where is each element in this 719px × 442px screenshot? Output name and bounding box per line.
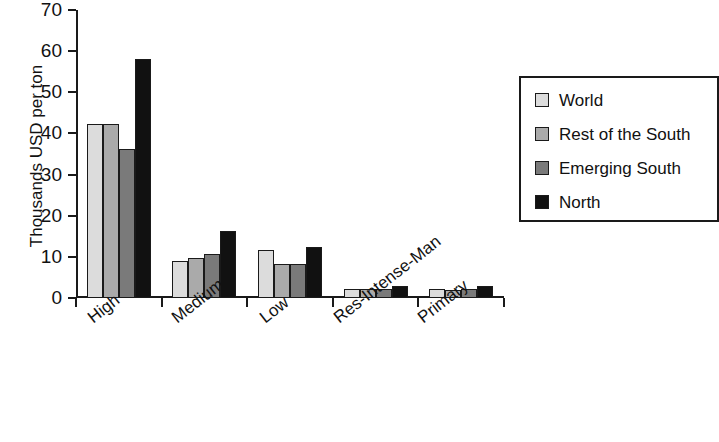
bar-group	[258, 10, 322, 298]
bar	[103, 124, 119, 298]
bar	[258, 250, 274, 298]
y-axis-tick-label: 0	[4, 288, 62, 307]
legend-item-label: North	[559, 194, 601, 211]
legend-item[interactable]: Emerging South	[535, 158, 681, 178]
bar	[392, 286, 408, 298]
legend-item[interactable]: World	[535, 90, 603, 110]
chart-legend: WorldRest of the SouthEmerging SouthNort…	[519, 76, 719, 222]
bar	[87, 124, 103, 298]
y-axis-tick	[68, 256, 76, 258]
legend-item[interactable]: North	[535, 192, 601, 212]
y-axis-tick-label: 50	[4, 82, 62, 101]
legend-item-label: Rest of the South	[559, 126, 690, 143]
y-axis-tick	[68, 132, 76, 134]
bar-group	[172, 10, 236, 298]
legend-swatch-world-icon	[535, 93, 549, 107]
bar	[274, 264, 290, 298]
legend-swatch-north-icon	[535, 195, 549, 209]
plot-area	[76, 10, 504, 298]
x-axis-tick	[246, 298, 248, 307]
bar	[135, 59, 151, 298]
x-axis-category-label: Low	[256, 293, 293, 328]
y-axis-tick-label: 40	[4, 123, 62, 142]
y-axis-tick	[68, 215, 76, 217]
y-axis-tick-label: 70	[4, 0, 62, 19]
x-axis-tick	[417, 298, 419, 307]
y-axis-tick-label: 20	[4, 206, 62, 225]
x-axis-tick	[75, 298, 77, 307]
y-axis-tick-label: 60	[4, 41, 62, 60]
bar	[172, 261, 188, 298]
y-axis-title: Thousands USD per ton	[27, 31, 47, 281]
bar-group	[87, 10, 151, 298]
bar-group	[344, 10, 408, 298]
y-axis-tick	[68, 91, 76, 93]
y-axis-tick	[68, 174, 76, 176]
legend-swatch-rest-of-the-south-icon	[535, 127, 549, 141]
legend-item[interactable]: Rest of the South	[535, 124, 690, 144]
y-axis-tick-label: 30	[4, 165, 62, 184]
legend-item-label: Emerging South	[559, 160, 681, 177]
x-axis-tick	[332, 298, 334, 307]
y-axis-tick	[68, 9, 76, 11]
bar-group	[429, 10, 493, 298]
legend-item-label: World	[559, 92, 603, 109]
bar	[119, 149, 135, 298]
x-axis-tick	[161, 298, 163, 307]
legend-swatch-emerging-south-icon	[535, 161, 549, 175]
x-axis-tick	[503, 298, 505, 307]
bar	[306, 247, 322, 298]
y-axis-tick	[68, 50, 76, 52]
bar	[290, 264, 306, 298]
bar	[477, 286, 493, 298]
y-axis-tick-label: 10	[4, 247, 62, 266]
